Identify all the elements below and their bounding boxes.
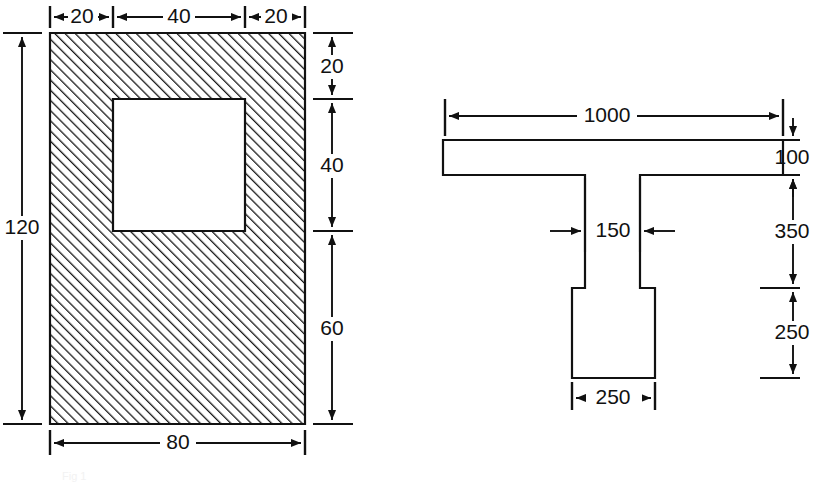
dim-label-flange-thickness: 100 bbox=[774, 145, 809, 168]
drawing-page: 20 40 20 bbox=[0, 0, 817, 487]
dim-label-web-height: 350 bbox=[774, 219, 809, 242]
dim-label-overall-height: 120 bbox=[4, 215, 39, 238]
hatched-section-body bbox=[50, 33, 305, 424]
top-dimension-chain: 20 40 20 bbox=[50, 4, 305, 28]
dim-overall-height: 120 bbox=[0, 33, 46, 424]
dim-label-bulb-height: 250 bbox=[774, 320, 809, 343]
engineering-drawing: 20 40 20 bbox=[0, 0, 817, 487]
dim-overall-width: 80 bbox=[50, 430, 305, 455]
dim-label-left-wall: 20 bbox=[70, 4, 93, 27]
right-figure-group: 1000 150 250 bbox=[443, 99, 817, 410]
dim-label-bulb-width: 250 bbox=[595, 385, 630, 408]
dim-flange-width: 1000 bbox=[445, 99, 783, 136]
t-beam-outline bbox=[443, 140, 783, 378]
dim-label-hole-width: 40 bbox=[167, 4, 190, 27]
dim-hole-height: 40 bbox=[312, 103, 354, 227]
left-figure-group: 20 40 20 bbox=[0, 4, 354, 482]
dim-top-wall-height: 20 bbox=[312, 37, 354, 95]
dim-left-wall-width: 20 bbox=[54, 4, 109, 28]
dim-label-overall-width: 80 bbox=[166, 430, 189, 453]
right-dimension-chain: 20 40 60 bbox=[312, 33, 354, 424]
dim-hole-width: 40 bbox=[117, 4, 241, 28]
dim-flange-thickness: 100 bbox=[774, 118, 809, 197]
dim-label-hole-height: 40 bbox=[320, 153, 343, 176]
figure-caption: Fig 1 bbox=[62, 470, 86, 482]
dim-label-bottom-wall: 60 bbox=[320, 316, 343, 339]
dim-right-wall-width: 20 bbox=[249, 4, 301, 28]
dim-bulb-width: 250 bbox=[572, 382, 655, 410]
dim-bulb-height: 250 bbox=[766, 292, 817, 374]
dim-label-web-thickness: 150 bbox=[595, 218, 630, 241]
dim-label-top-wall: 20 bbox=[320, 54, 343, 77]
dim-label-flange-width: 1000 bbox=[584, 103, 631, 126]
dim-label-right-wall: 20 bbox=[264, 4, 287, 27]
dim-bottom-wall-height: 60 bbox=[312, 235, 354, 420]
dim-web-height: 350 bbox=[766, 179, 817, 284]
